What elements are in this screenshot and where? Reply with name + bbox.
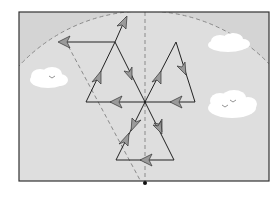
vector-diagram (0, 0, 280, 197)
bottom-pivot-point (143, 181, 147, 185)
center-point (144, 101, 146, 103)
